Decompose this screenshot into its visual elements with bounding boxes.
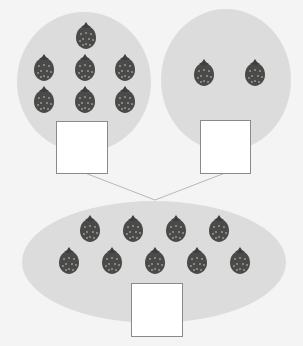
answer-box-left[interactable]	[57, 122, 108, 174]
answer-box-right[interactable]	[201, 121, 251, 174]
answer-box-whole[interactable]	[132, 284, 183, 337]
connector-line-left	[85, 173, 155, 200]
number-bond-diagram	[0, 0, 303, 346]
connector-line-right	[155, 173, 225, 200]
